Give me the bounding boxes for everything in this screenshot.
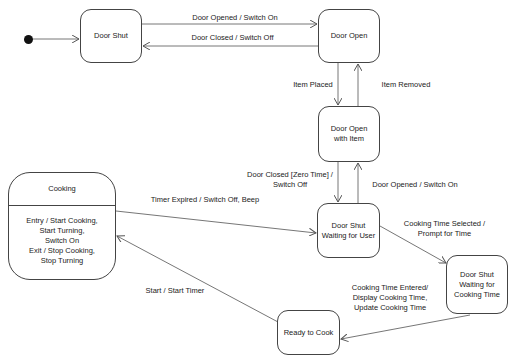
timer-expired-arrow xyxy=(116,211,316,233)
label-open-to-shut: Door Closed / Switch Off xyxy=(180,33,285,43)
label-item-placed: Item Placed xyxy=(288,80,338,90)
label-item-removed: Item Removed xyxy=(376,80,436,90)
label-shut-to-open: Door Opened / Switch On xyxy=(185,13,285,23)
label-time-selected: Cooking Time Selected / Prompt for Time xyxy=(397,219,492,239)
start-arrow xyxy=(117,236,278,322)
state-ready-to-cook-label: Ready to Cook xyxy=(284,328,334,338)
state-door-shut-label: Door Shut xyxy=(94,31,128,41)
label-timer-expired: Timer Expired / Switch Off, Beep xyxy=(140,195,270,205)
label-time-entered: Cooking Time Entered/ Display Cooking Ti… xyxy=(345,283,435,313)
label-closed-zero-time: Door Closed [Zero Time] / Switch Off xyxy=(240,170,340,190)
state-door-open: Door Open xyxy=(318,9,380,63)
state-door-shut-waiting-user: Door Shut Waiting for User xyxy=(317,203,380,258)
label-opened-switch-on: Door Opened / Switch On xyxy=(365,180,465,190)
state-door-open-with-item: Door Open with Item xyxy=(318,106,380,162)
state-cooking-title: Cooking xyxy=(9,173,115,206)
initial-state-node xyxy=(24,35,33,44)
state-door-open-with-item-label: Door Open with Item xyxy=(331,124,368,144)
state-door-shut-waiting-time: Door Shut Waiting for Cooking Time xyxy=(446,255,508,314)
state-door-shut-waiting-user-label: Door Shut Waiting for User xyxy=(322,221,376,241)
state-ready-to-cook: Ready to Cook xyxy=(277,310,340,355)
label-start: Start / Start Timer xyxy=(140,286,210,296)
state-cooking-activities: Entry / Start Cooking, Start Turning, Sw… xyxy=(9,206,115,266)
state-door-open-label: Door Open xyxy=(331,31,368,41)
state-door-shut: Door Shut xyxy=(80,9,142,63)
state-cooking: Cooking Entry / Start Cooking, Start Tur… xyxy=(8,172,116,280)
time-entered-arrow xyxy=(341,315,470,339)
state-door-shut-waiting-time-label: Door Shut Waiting for Cooking Time xyxy=(454,270,500,300)
